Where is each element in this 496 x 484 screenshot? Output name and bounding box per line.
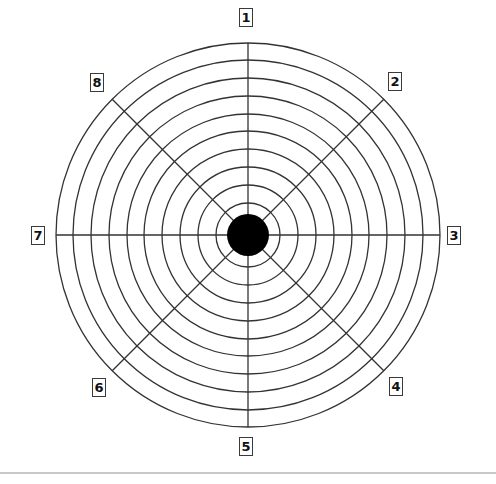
spoke-label-2: 2	[388, 72, 402, 91]
target-diagram: 1 2 3 4 5 6 7 8	[0, 0, 496, 484]
spoke-label-4: 4	[389, 377, 403, 396]
spoke-label-3: 3	[447, 226, 461, 245]
spoke-label-7: 7	[31, 226, 45, 245]
spoke-8	[112, 99, 248, 235]
center-disc	[227, 214, 269, 256]
spoke-2	[248, 99, 384, 235]
spoke-label-6: 6	[92, 378, 106, 397]
spoke-4	[248, 235, 384, 371]
bottom-divider	[0, 472, 496, 474]
spoke-label-1: 1	[239, 8, 253, 27]
spoke-label-8: 8	[90, 73, 104, 92]
spoke-6	[112, 235, 248, 371]
concentric-rings-graphic	[0, 0, 496, 484]
spoke-label-5: 5	[239, 437, 253, 456]
